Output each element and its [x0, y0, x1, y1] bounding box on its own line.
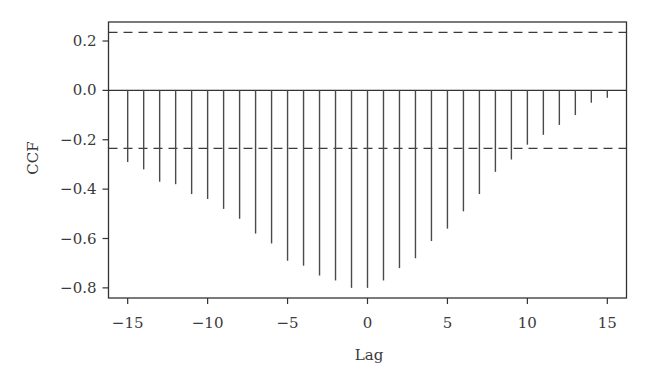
y-tick-label: −0.6: [60, 230, 96, 248]
y-tick-label: 0.2: [73, 32, 97, 50]
x-axis-label: Lag: [355, 346, 384, 364]
y-tick-label: −0.2: [60, 131, 96, 149]
x-tick-label: 15: [598, 314, 617, 332]
ccf-chart: −15−10−5051015 0.20.0−0.2−0.4−0.6−0.8 La…: [0, 0, 654, 384]
x-tick-label: 0: [363, 314, 373, 332]
chart-background: [0, 0, 654, 384]
x-tick-label: −15: [112, 314, 144, 332]
y-tick-label: −0.8: [60, 279, 96, 297]
y-axis-label: CCF: [24, 141, 42, 174]
x-tick-label: −10: [192, 314, 224, 332]
y-tick-label: −0.4: [60, 180, 96, 198]
x-tick-label: 10: [518, 314, 537, 332]
x-tick-label: 5: [443, 314, 453, 332]
x-tick-label: −5: [276, 314, 298, 332]
y-tick-label: 0.0: [73, 81, 97, 99]
